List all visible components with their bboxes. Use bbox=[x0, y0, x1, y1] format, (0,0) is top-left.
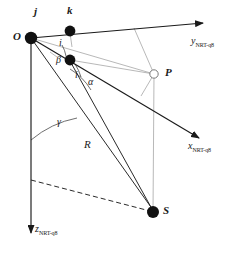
y-axis-subscript: NRT-q8 bbox=[195, 42, 214, 48]
dashed-ground-line bbox=[31, 180, 150, 211]
y-axis-line bbox=[31, 23, 203, 38]
ray-i-dot-to-S bbox=[70, 61, 152, 209]
label-z-axis: zNRT-q8 bbox=[35, 224, 57, 236]
arc-beta bbox=[62, 45, 66, 56]
label-angle-i: i bbox=[75, 70, 78, 80]
angle-arcs bbox=[31, 45, 91, 140]
label-point-S: S bbox=[163, 205, 169, 216]
dashed-lines bbox=[31, 180, 150, 211]
label-angle-beta: β bbox=[56, 55, 61, 65]
point-markers bbox=[25, 26, 159, 218]
label-point-O: O bbox=[13, 31, 21, 42]
perpendicular-P-to-y-axis bbox=[134, 28, 154, 74]
ray-i-to-P bbox=[70, 60, 154, 74]
label-point-P: P bbox=[165, 67, 172, 78]
marker-point-S bbox=[147, 206, 159, 218]
label-point-k: k bbox=[67, 5, 73, 16]
x-axis-subscript: NRT-q8 bbox=[192, 147, 211, 153]
marker-point-P bbox=[150, 70, 158, 78]
geometry-diagram: O j k P S i β i α γ R yNRT-q8 xNRT-q8 zN… bbox=[0, 0, 241, 253]
vertical-drop-P-to-S bbox=[153, 74, 154, 212]
marker-origin-O bbox=[25, 32, 37, 44]
label-angle-alpha: α bbox=[88, 77, 93, 87]
marker-point-k bbox=[65, 26, 76, 37]
label-segment-R: R bbox=[84, 139, 91, 150]
label-angle-i-top: i bbox=[59, 38, 62, 48]
label-y-axis: yNRT-q8 bbox=[191, 36, 214, 48]
label-point-j: j bbox=[34, 6, 37, 17]
label-angle-gamma: γ bbox=[57, 117, 61, 127]
arc-gamma bbox=[31, 118, 77, 140]
ray-O-to-P bbox=[31, 38, 154, 74]
z-axis-subscript: NRT-q8 bbox=[39, 230, 58, 236]
label-x-axis: xNRT-q8 bbox=[188, 141, 211, 153]
marker-point-i bbox=[65, 55, 76, 66]
